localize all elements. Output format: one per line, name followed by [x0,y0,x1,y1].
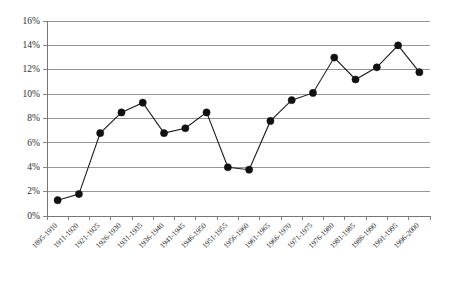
chart-canvas: 0%2%4%6%8%10%12%14%16%1895-19101911-1920… [0,0,456,283]
y-axis-tick-label: 6% [27,138,40,148]
data-point-marker[interactable] [224,164,231,171]
data-point-marker[interactable] [139,99,146,106]
y-axis-tick-label: 16% [23,16,41,26]
data-point-marker[interactable] [203,109,210,116]
y-axis-tick-label: 8% [27,113,40,123]
data-point-marker[interactable] [352,76,359,83]
data-point-marker[interactable] [288,97,295,104]
y-axis-tick-label: 14% [23,40,41,50]
y-axis-tick-label: 0% [27,211,40,221]
data-point-marker[interactable] [267,117,274,124]
data-point-marker[interactable] [373,64,380,71]
line-chart: 0%2%4%6%8%10%12%14%16%1895-19101911-1920… [0,0,456,283]
data-point-marker[interactable] [97,130,104,137]
data-point-marker[interactable] [182,125,189,132]
y-axis-tick-label: 10% [23,89,41,99]
data-point-marker[interactable] [118,109,125,116]
data-point-marker[interactable] [309,89,316,96]
data-point-marker[interactable] [75,190,82,197]
data-point-marker[interactable] [331,54,338,61]
data-point-marker[interactable] [394,42,401,49]
y-axis-tick-label: 4% [27,162,40,172]
data-point-marker[interactable] [246,166,253,173]
data-point-marker[interactable] [160,130,167,137]
data-point-marker[interactable] [416,69,423,76]
y-axis-tick-label: 2% [27,186,40,196]
series-line [58,45,420,200]
data-point-marker[interactable] [54,197,61,204]
y-axis-tick-label: 12% [23,64,41,74]
